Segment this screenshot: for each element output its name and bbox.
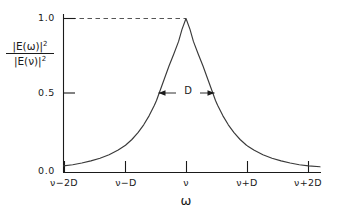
x-tick-label-nu-plus-2d: ν+2D [288, 178, 328, 188]
y-axis-title: |E(ω)|2 |E(ν)|2 [6, 40, 54, 68]
y-axis-title-denominator-exponent: 2 [42, 55, 46, 63]
x-tick-label-nu-minus-d: ν−D [106, 178, 146, 188]
y-axis-title-numerator-base: |E(ω)| [12, 40, 43, 52]
y-tick-label-0-5: 0.5 [11, 88, 55, 98]
y-axis-title-denominator-base: |E(ν)| [14, 55, 42, 67]
x-axis-title: ω [146, 194, 226, 207]
x-tick-label-nu-plus-d: ν+D [227, 178, 267, 188]
fwhm-width-label: D [176, 86, 200, 96]
x-tick-label-nu-minus-2d: ν−2D [44, 178, 84, 188]
y-axis-title-denominator: |E(ν)|2 [6, 53, 54, 67]
y-axis-title-numerator: |E(ω)|2 [6, 40, 54, 53]
y-axis-title-numerator-exponent: 2 [43, 40, 47, 48]
y-tick-label-1-0: 1.0 [11, 13, 55, 23]
y-tick-label-0-0: 0.0 [11, 166, 55, 176]
x-tick-label-nu: ν [166, 178, 206, 188]
